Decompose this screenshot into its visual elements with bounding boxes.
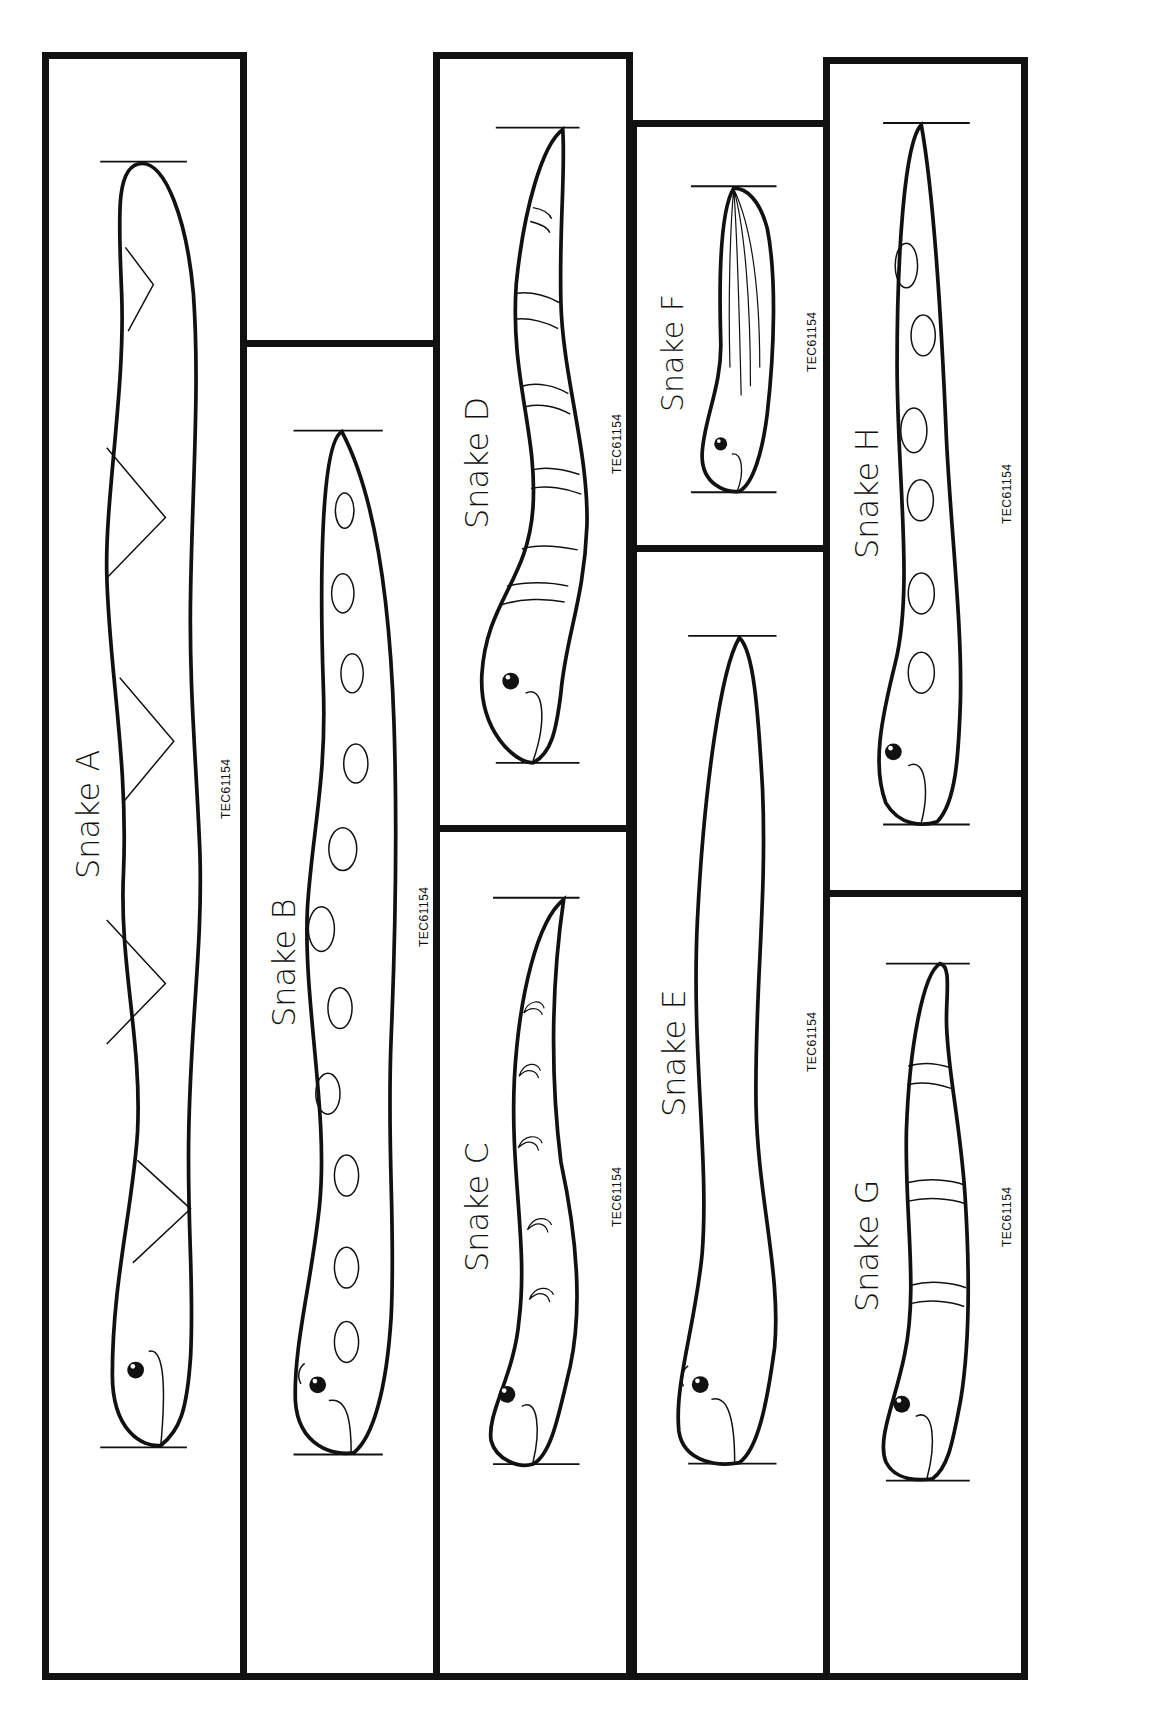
snake-d-code: TEC61154: [610, 414, 624, 474]
snake-h-code: TEC61154: [1000, 464, 1014, 524]
snake-card-d: Snake D TEC61154: [433, 52, 633, 832]
snake-g-label: Snake G: [848, 1180, 886, 1312]
snake-h-label: Snake H: [848, 427, 886, 559]
snake-e-code: TEC61154: [805, 1012, 819, 1072]
snake-b-label: Snake B: [265, 899, 303, 1027]
snake-f-code: TEC61154: [805, 312, 819, 372]
snake-g-code: TEC61154: [1000, 1187, 1014, 1247]
snake-card-g: Snake G TEC61154: [823, 890, 1028, 1680]
snake-card-a: Snake A TEC61154: [42, 52, 247, 1680]
snake-card-b: Snake B TEC61154: [240, 340, 440, 1680]
snake-a-code: TEC61154: [219, 759, 233, 819]
snake-d-label: Snake D: [458, 397, 496, 529]
snake-card-e: Snake E TEC61154: [630, 545, 830, 1680]
snake-card-c: Snake C TEC61154: [433, 825, 633, 1680]
snake-card-f: Snake F TEC61154: [630, 120, 830, 552]
snake-f-label: Snake F: [655, 294, 690, 412]
snake-c-label: Snake C: [458, 1142, 496, 1272]
snake-e-label: Snake E: [655, 989, 693, 1117]
snake-card-h: Snake H TEC61154: [823, 57, 1028, 897]
snake-c-code: TEC61154: [610, 1167, 624, 1227]
snake-a-label: Snake A: [69, 750, 107, 879]
snake-b-code: TEC61154: [417, 887, 431, 947]
